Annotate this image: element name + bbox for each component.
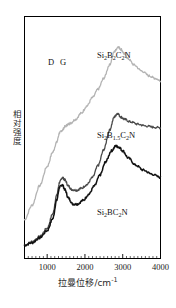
raman-spectra-figure: 相对强度 拉曼位移/cm-1 1000200030004000 Si2B2C2N…	[0, 0, 176, 308]
x-tick-label: 1000	[32, 262, 62, 272]
x-tick-label: 3000	[108, 262, 138, 272]
x-tick-label: 4000	[146, 262, 176, 272]
series-label: Si2B2C2N	[97, 50, 131, 60]
x-axis-unit-exponent: -1	[111, 276, 117, 284]
y-axis-title: 相对强度	[2, 110, 20, 146]
x-axis-title: 拉曼位移/cm-1	[0, 276, 176, 289]
peak-label-g: G	[60, 57, 66, 67]
x-axis-title-text: 拉曼位移/cm	[58, 278, 111, 288]
series-label: Si2B1.5C2N	[97, 130, 135, 140]
plot-frame	[25, 17, 161, 259]
series-label: Si2BC2N	[97, 207, 128, 217]
x-tick-label: 2000	[70, 262, 100, 272]
peak-label-d: D	[48, 57, 54, 67]
